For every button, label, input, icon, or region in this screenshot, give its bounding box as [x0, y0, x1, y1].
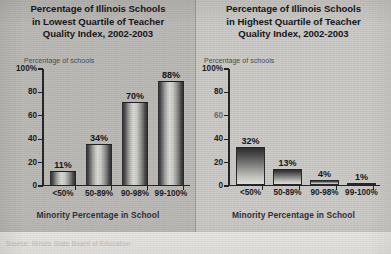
bar-lowest-0: 11% <50% [50, 171, 76, 185]
x-axis-title-highest: Minority Percentage in School [196, 210, 391, 220]
bar-lowest-2: 70% 90-98% [122, 102, 148, 185]
x-category-lowest-2: 90-98% [121, 189, 149, 198]
y-tick-label-0: 0 [218, 181, 223, 190]
chart-panel-highest-quartile: Percentage of Illinois Schools in Highes… [196, 0, 391, 232]
bar-value-highest-3: 1% [355, 172, 368, 182]
bar-highest-3: 1% 99-100% [347, 183, 376, 185]
bar-value-highest-1: 13% [278, 158, 296, 168]
plot-area-lowest: 0 20 40 60 80 [42, 69, 190, 186]
x-axis-title-lowest: Minority Percentage in School [0, 210, 196, 220]
chart-title-line-3: Quality Index, 2002-2003 [0, 28, 196, 41]
y-tick-label-20: 20 [214, 157, 223, 166]
x-category-lowest-1: 50-89% [85, 189, 113, 198]
x-category-highest-1: 50-89% [273, 188, 301, 197]
bar-lowest-3: 88% 99-100% [158, 81, 184, 185]
chart-title-line-3: Quality Index, 2002-2003 [196, 28, 391, 41]
y-tick-label-20: 20 [28, 157, 37, 166]
x-tick-0 [75, 185, 76, 190]
x-tick-0 [262, 185, 263, 190]
plot-area-highest: 0 20 40 60 80 [228, 69, 380, 186]
x-category-highest-0: <50% [240, 188, 261, 197]
y-tick-label-40: 40 [28, 134, 37, 143]
chart-title-line-2: in Lowest Quartile of Teacher [0, 16, 196, 29]
x-category-lowest-3: 99-100% [155, 189, 188, 198]
chart-title-line-1: Percentage of Illinois Schools [0, 3, 196, 16]
y-tick-label-100: 100% [16, 64, 37, 73]
bar-highest-0: 32% <50% [236, 147, 265, 184]
bar-highest-1: 13% 50-89% [273, 169, 302, 184]
bar-value-lowest-0: 11% [54, 160, 72, 170]
x-axis-line-highest [228, 185, 380, 187]
y-tick-label-40: 40 [214, 134, 223, 143]
bar-value-lowest-1: 34% [90, 133, 108, 143]
bar-value-highest-2: 4% [318, 169, 331, 179]
x-category-highest-2: 90-98% [310, 188, 338, 197]
x-category-highest-3: 99-100% [345, 188, 378, 197]
bar-value-lowest-3: 88% [162, 70, 180, 80]
y-tick-label-100: 100% [202, 64, 223, 73]
bar-value-highest-0: 32% [241, 136, 259, 146]
chart-title-line-2: in Highest Quartile of Teacher [196, 16, 391, 29]
chart-title-highest-quartile: Percentage of Illinois Schools in Highes… [196, 3, 391, 41]
figure-two-bar-charts: Percentage of Illinois Schools in Lowest… [0, 0, 391, 254]
bar-value-lowest-2: 70% [126, 91, 144, 101]
bar-lowest-1: 34% 50-89% [86, 144, 112, 185]
chart-title-line-1: Percentage of Illinois Schools [196, 3, 391, 16]
chart-panel-lowest-quartile: Percentage of Illinois Schools in Lowest… [0, 0, 196, 232]
chart-title-lowest-quartile: Percentage of Illinois Schools in Lowest… [0, 3, 196, 41]
y-tick-label-0: 0 [32, 181, 37, 190]
y-tick-label-80: 80 [214, 87, 223, 96]
bar-highest-2: 4% 90-98% [310, 180, 339, 185]
x-axis-line-lowest [42, 185, 190, 187]
y-axis-line-highest [228, 69, 230, 186]
chart-panels: Percentage of Illinois Schools in Lowest… [0, 0, 391, 232]
y-tick-label-60: 60 [28, 110, 37, 119]
y-tick-label-80: 80 [28, 87, 37, 96]
y-tick-label-60: 60 [214, 110, 223, 119]
y-axis-line-lowest [42, 69, 44, 186]
figure-footnote: Source: Illinois State Board of Educatio… [6, 240, 206, 249]
x-category-lowest-0: <50% [52, 189, 73, 198]
